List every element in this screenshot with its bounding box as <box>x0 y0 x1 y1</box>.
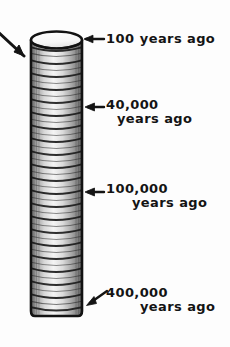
ice-core-figure: 100 years ago 40,000 years ago 100,000 y… <box>0 0 230 347</box>
annotation-label-100-years: 100 years ago <box>106 30 215 47</box>
annotation-unit: years ago <box>117 112 192 126</box>
annotation-unit: years ago <box>140 31 215 46</box>
annotation-amount: 100,000 <box>106 182 207 196</box>
annotation-amount: 100 <box>106 31 134 46</box>
arrow-100 <box>84 35 104 43</box>
annotation-unit: years ago <box>132 196 207 210</box>
annotation-amount: 400,000 <box>106 286 215 300</box>
annotation-unit: years ago <box>140 300 215 314</box>
annotation-label-100000-years: 100,000 years ago <box>106 182 207 209</box>
annotation-arrows <box>84 35 107 305</box>
annotation-amount: 40,000 <box>106 98 192 112</box>
ice-core-column <box>30 32 83 317</box>
arrow-40000 <box>85 103 104 111</box>
annotation-label-40000-years: 40,000 years ago <box>106 98 192 125</box>
annotation-label-400000-years: 400,000 years ago <box>106 286 215 313</box>
incoming-arrow <box>0 30 24 56</box>
arrow-100000 <box>85 188 104 196</box>
arrow-400000 <box>87 291 108 306</box>
